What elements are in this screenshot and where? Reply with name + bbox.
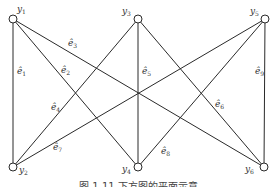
edge-label-e3: ê3 [68, 38, 77, 49]
node-y1 [9, 15, 17, 23]
edge-label-e2: ê2 [61, 65, 70, 76]
node-label-y6: y6 [244, 164, 254, 175]
figure-caption: 图 1.11 下方图的平面示意 [0, 178, 277, 187]
graph-diagram: ê1ê2ê3ê4ê5ê6ê7ê8ê9y1y2y3y4y5y6 [0, 0, 277, 187]
edge-label-e9: ê9 [255, 66, 264, 77]
edge-label-e1: ê1 [17, 66, 26, 77]
labels-group: ê1ê2ê3ê4ê5ê6ê7ê8ê9y1y2y3y4y5y6 [16, 4, 264, 176]
node-y2 [9, 163, 17, 171]
node-label-y4: y4 [121, 164, 131, 175]
node-label-y5: y5 [249, 6, 259, 17]
node-label-y1: y1 [16, 4, 26, 15]
edge-e9 [264, 19, 265, 167]
node-label-y3: y3 [121, 6, 131, 17]
edge-label-e5: ê5 [142, 66, 151, 77]
node-y6 [260, 163, 268, 171]
node-y5 [261, 15, 269, 23]
edge-label-e7: ê7 [53, 142, 62, 153]
node-label-y2: y2 [18, 165, 28, 176]
edge-label-e4: ê4 [51, 102, 60, 113]
edge-label-e8: ê8 [161, 146, 170, 157]
edge-label-e6: ê6 [215, 99, 224, 110]
node-y3 [134, 15, 142, 23]
edges-group [13, 19, 265, 167]
node-y4 [134, 163, 142, 171]
